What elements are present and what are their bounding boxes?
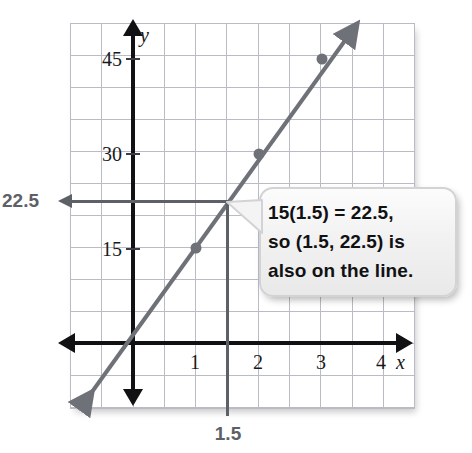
callout-tail (227, 200, 262, 233)
graph-figure: 45 30 15 1 2 3 4 y x 22.5 1.5 15(1.5) = (0, 0, 472, 453)
callout-tail-layer (0, 0, 472, 453)
